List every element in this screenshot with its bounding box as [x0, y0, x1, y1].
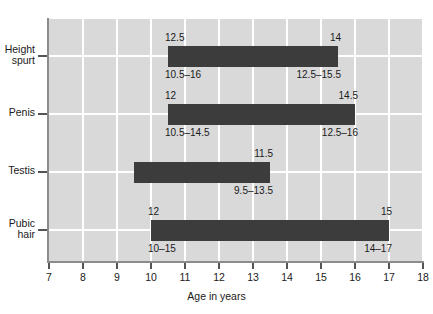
x-axis-tick-label: 12 — [207, 271, 231, 283]
x-axis-tick-label: 13 — [241, 271, 265, 283]
bar-label-bottom-end-pubic-hair: 14–17 — [364, 243, 392, 254]
y-axis-label-pubic-hair: Pubic hair — [0, 218, 35, 241]
x-axis-tick — [286, 263, 288, 269]
y-axis-tick — [38, 229, 47, 231]
x-axis-tick — [184, 263, 186, 269]
bar-label-top-end-penis: 14.5 — [339, 90, 358, 101]
plot-area — [49, 19, 423, 262]
x-axis-title: Age in years — [0, 290, 433, 302]
x-axis-tick-label: 16 — [343, 271, 367, 283]
bar-height-spurt — [168, 46, 338, 67]
bar-label-bottom-start-height-spurt: 10.5–16 — [165, 69, 201, 80]
x-axis-tick-label: 17 — [377, 271, 401, 283]
bar-label-top-start-penis: 12 — [165, 90, 176, 101]
x-axis-line — [47, 261, 424, 263]
bar-pubic-hair — [151, 220, 389, 241]
y-axis-line — [47, 18, 49, 263]
x-axis-tick-label: 7 — [37, 271, 61, 283]
x-axis-tick — [218, 263, 220, 269]
y-axis-label-penis: Penis — [0, 107, 35, 119]
y-axis-tick — [38, 113, 47, 115]
bar-label-bottom-end-height-spurt: 12.5–15.5 — [297, 69, 342, 80]
bar-label-bottom-end-testis: 9.5–13.5 — [234, 185, 273, 196]
x-axis-tick — [354, 263, 356, 269]
bar-penis — [168, 104, 355, 125]
bar-label-top-end-testis: 11.5 — [254, 148, 273, 159]
x-axis-tick — [252, 263, 254, 269]
x-axis-tick-label: 9 — [105, 271, 129, 283]
bar-label-bottom-start-penis: 10.5–14.5 — [165, 127, 210, 138]
chart-container: 12.51410.5–1612.5–15.51214.510.5–14.512.… — [0, 0, 433, 314]
x-axis-tick — [116, 263, 118, 269]
x-axis-tick-label: 15 — [309, 271, 333, 283]
y-axis-label-testis: Testis — [0, 165, 35, 177]
y-axis-label-height-spurt: Height spurt — [0, 44, 35, 67]
x-axis-tick — [388, 263, 390, 269]
bar-label-top-end-height-spurt: 14 — [330, 32, 341, 43]
bar-label-top-end-pubic-hair: 15 — [381, 206, 392, 217]
x-axis-tick-label: 14 — [275, 271, 299, 283]
x-axis-tick-label: 11 — [173, 271, 197, 283]
bar-label-top-start-height-spurt: 12.5 — [165, 32, 184, 43]
y-axis-tick — [38, 55, 47, 57]
x-axis-tick — [150, 263, 152, 269]
bar-testis — [134, 162, 270, 183]
bar-label-bottom-end-penis: 12.5–16 — [322, 127, 358, 138]
bar-label-bottom-start-pubic-hair: 10–15 — [148, 243, 176, 254]
x-axis-tick — [320, 263, 322, 269]
x-axis-tick-label: 18 — [411, 271, 433, 283]
bar-label-top-start-pubic-hair: 12 — [148, 206, 159, 217]
x-axis-tick-label: 8 — [71, 271, 95, 283]
x-axis-tick-label: 10 — [139, 271, 163, 283]
x-axis-tick — [48, 263, 50, 269]
x-axis-tick — [422, 263, 424, 269]
y-axis-tick — [38, 171, 47, 173]
x-axis-tick — [82, 263, 84, 269]
